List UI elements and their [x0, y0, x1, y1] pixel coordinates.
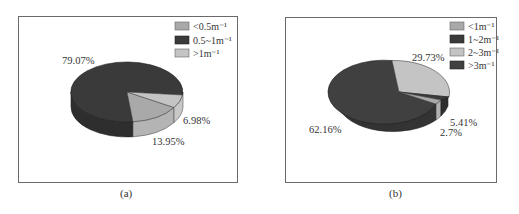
legend-b: <1m⁻¹ 1~2m⁻¹ 2~3m⁻¹ >3m⁻¹	[450, 21, 499, 71]
caption-b: (b)	[389, 187, 402, 199]
legend-b-item-0: <1m⁻¹	[468, 21, 494, 32]
legend-b-item-2: 2~3m⁻¹	[468, 47, 499, 58]
slice-label-b-29: 29.73%	[412, 52, 445, 63]
legend-b-item-3: >3m⁻¹	[468, 60, 494, 71]
slice-label-b-2: 2.7%	[440, 127, 462, 138]
slice-label-b-62: 62.16%	[309, 124, 342, 135]
pie-b-body	[328, 60, 450, 131]
pie-chart-b: 29.73% 5.41% 2.7% 62.16% <1m⁻¹ 1~2m⁻¹ 2~…	[0, 0, 519, 214]
slice-b-2-3	[392, 60, 450, 97]
legend-b-item-1: 1~2m⁻¹	[468, 34, 499, 45]
